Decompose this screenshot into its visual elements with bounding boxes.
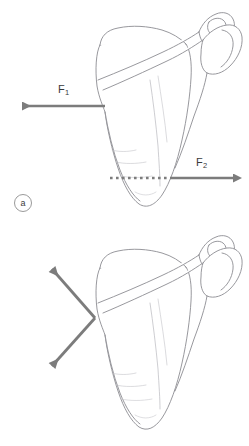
panel-a: F1 F2 a bbox=[0, 0, 249, 223]
vector-label-f1-a: F1 bbox=[58, 83, 69, 95]
panel-b: F1 F2 b bbox=[0, 223, 249, 446]
vector-f2-b bbox=[52, 318, 95, 366]
vector-f1-b bbox=[52, 269, 95, 318]
scapula-illustration-b bbox=[96, 236, 242, 430]
panel-tag-a: a bbox=[14, 194, 32, 212]
figure-root: F1 F2 a bbox=[0, 0, 249, 446]
vector-label-f2-a: F2 bbox=[196, 156, 207, 168]
